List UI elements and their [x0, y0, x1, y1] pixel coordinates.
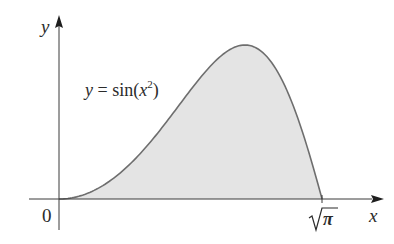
- sqrt-pi-label: π: [309, 208, 338, 230]
- origin-label: 0: [42, 205, 52, 226]
- chart: y x 0 π y = sin(x2): [0, 0, 394, 244]
- function-label: y = sin(x2): [83, 78, 159, 101]
- svg-text:π: π: [323, 209, 334, 229]
- shaded-area: [59, 45, 322, 199]
- x-axis-arrow-icon: [371, 195, 384, 203]
- x-axis-label: x: [368, 205, 378, 226]
- y-axis-label: y: [39, 16, 50, 37]
